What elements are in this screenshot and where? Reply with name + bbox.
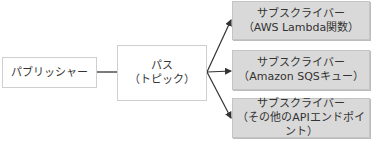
subscriber-type: （AWS Lambda関数）: [243, 21, 360, 35]
subscriber-box-api-endpoint: サブスクライバー （その他のAPIエンドポイント）: [232, 98, 370, 138]
publisher-label: パブリッシャー: [11, 66, 88, 80]
subscriber-title: サブスクライバー: [257, 97, 345, 111]
topic-subtitle: （トピック）: [129, 73, 195, 87]
topic-to-subscriber-lambda-arrow: [207, 20, 231, 72]
subscriber-title: サブスクライバー: [257, 7, 345, 21]
subscriber-type: （その他のAPIエンドポイント）: [233, 111, 369, 139]
subscriber-type: （Amazon SQSキュー）: [238, 70, 364, 84]
topic-title: パス: [151, 59, 173, 73]
topic-box: パス （トピック）: [117, 45, 207, 101]
subscriber-title: サブスクライバー: [257, 56, 345, 70]
subscriber-box-sqs: サブスクライバー （Amazon SQSキュー）: [232, 50, 370, 90]
subscriber-box-lambda: サブスクライバー （AWS Lambda関数）: [232, 1, 370, 40]
topic-to-subscriber-api-arrow: [207, 72, 231, 118]
publisher-box: パブリッシャー: [2, 57, 97, 88]
topic-to-subscriber-sqs-arrow: [207, 71, 231, 72]
